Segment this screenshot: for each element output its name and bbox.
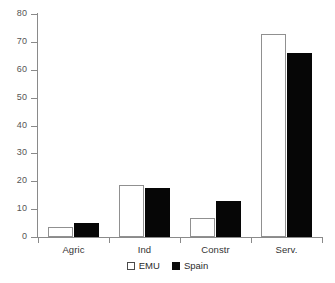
legend-label: Spain	[184, 261, 208, 271]
y-axis-tick-label: 60	[0, 65, 27, 74]
y-axis-tick	[31, 126, 37, 127]
y-axis-tick	[31, 98, 37, 99]
x-axis-category-label: Serv.	[251, 245, 322, 255]
bar-agric-spain	[74, 223, 99, 237]
y-axis-tick	[31, 42, 37, 43]
x-axis-tick	[38, 238, 39, 243]
y-axis-tick-label: 70	[0, 37, 27, 46]
y-axis-tick	[31, 209, 37, 210]
x-axis-tick	[322, 238, 323, 243]
x-axis-category-label: Agric	[38, 245, 109, 255]
x-axis-tick	[251, 238, 252, 243]
x-axis-category-label: Ind	[109, 245, 180, 255]
y-axis-tick	[31, 14, 37, 15]
legend-swatch-icon	[127, 262, 135, 270]
y-axis-tick-label: 50	[0, 93, 27, 102]
bar-chart: 01020304050607080 AgricIndConstrServ. EM…	[0, 0, 335, 283]
y-axis-tick	[31, 70, 37, 71]
plot-area	[38, 14, 323, 237]
x-axis-tick	[109, 238, 110, 243]
x-axis-tick	[180, 238, 181, 243]
legend-label: EMU	[139, 261, 160, 271]
y-axis-tick-label: 20	[0, 176, 27, 185]
y-axis-tick-label: 40	[0, 121, 27, 130]
bar-serv-spain	[287, 53, 312, 237]
y-axis-tick-label: 30	[0, 148, 27, 157]
x-axis-category-label: Constr	[180, 245, 251, 255]
bar-constr-spain	[216, 201, 241, 237]
y-axis-tick-label: 10	[0, 204, 27, 213]
bar-ind-spain	[145, 188, 170, 237]
y-axis-tick	[31, 181, 37, 182]
y-axis-tick	[31, 153, 37, 154]
chart-legend: EMUSpain	[0, 261, 335, 271]
y-axis-tick	[31, 237, 37, 238]
bar-agric-emu	[48, 227, 73, 237]
legend-item-emu: EMU	[127, 261, 160, 271]
bar-ind-emu	[119, 185, 144, 237]
legend-swatch-icon	[172, 262, 180, 270]
y-axis-tick-label: 80	[0, 9, 27, 18]
bar-serv-emu	[261, 34, 286, 237]
y-axis-tick-label: 0	[0, 232, 27, 241]
bar-constr-emu	[190, 218, 215, 238]
legend-item-spain: Spain	[172, 261, 208, 271]
